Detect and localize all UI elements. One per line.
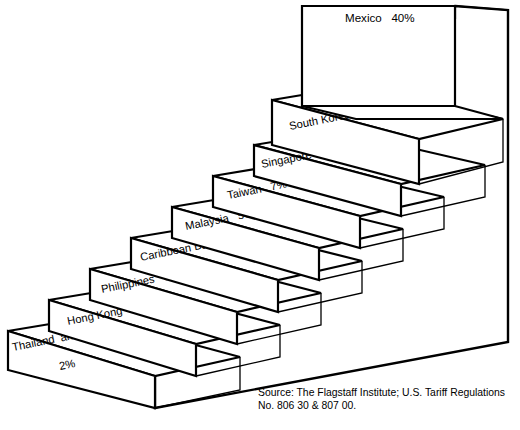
staircase-chart: Thailand and Indonesia 2% Hong Kong 2% P… [0,0,520,430]
figure-canvas: Thailand and Indonesia 2% Hong Kong 2% P… [0,0,520,430]
source-line-1: Source: The Flagstaff Institute; U.S. Ta… [258,386,516,399]
source-line-2: No. 806 30 & 807 00. [258,399,516,412]
source-note: Source: The Flagstaff Institute; U.S. Ta… [258,386,516,412]
step-label-mexico: Mexico 40% [345,11,415,24]
